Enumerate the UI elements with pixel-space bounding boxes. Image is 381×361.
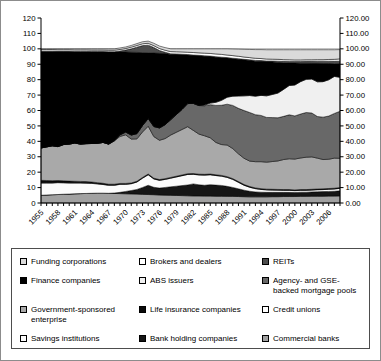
y-right-tick-label: 120.00 (346, 14, 371, 23)
x-tick-label: 2003 (298, 208, 317, 227)
legend-swatch-government-sponsored-enterprise (20, 306, 27, 313)
x-tick-label: 1955 (27, 208, 46, 227)
y-left-tick-label: 110 (23, 29, 36, 38)
x-tick-label: 1976 (145, 208, 164, 227)
y-right-tick-label: 50.00 (346, 122, 366, 131)
legend-label: Funding corporations (31, 257, 106, 267)
legend-swatch-life-insurance-companies (139, 306, 146, 313)
legend-item-savings-institutions: Savings institutions (20, 334, 137, 344)
x-tick-label: 1970 (111, 208, 130, 227)
legend-swatch-credit-unions (262, 306, 269, 313)
chart-legend: Funding corporationsBrokers and dealersR… (11, 248, 370, 349)
legend-label: Commercial banks (273, 334, 339, 344)
legend-swatch-abs-issuers (139, 277, 146, 284)
legend-label: ABS issuers (150, 276, 194, 286)
y-left-tick-label: 40 (27, 137, 36, 146)
legend-swatch-savings-institutions (20, 335, 27, 342)
legend-label: Credit unions (273, 305, 320, 315)
y-right-tick-label: 80.00 (346, 75, 366, 84)
y-left-tick-label: 0 (31, 199, 36, 208)
x-tick-label: 1964 (78, 208, 97, 227)
legend-item-abs-issuers: ABS issuers (139, 276, 260, 286)
legend-item-credit-unions: Credit unions (262, 305, 363, 315)
legend-item-bank-holding-companies: Bank holding companies (139, 334, 260, 344)
legend-label: Life insurance companies (150, 305, 241, 315)
legend-label: Agency- and GSE-backed mortgage pools (273, 276, 363, 296)
x-tick-label: 1979 (162, 208, 181, 227)
y-left-tick-label: 10 (27, 183, 36, 192)
legend-label: Finance companies (31, 276, 100, 286)
legend-swatch-finance-companies (20, 277, 27, 284)
y-left-tick-label: 90 (27, 60, 36, 69)
legend-swatch-agency-gse-backed-mortgage-pools (262, 277, 269, 284)
y-right-tick-label: 0.00 (346, 199, 362, 208)
legend-swatch-reits (262, 258, 269, 265)
plot-areas (41, 41, 340, 203)
legend-item-commercial-banks: Commercial banks (262, 334, 363, 344)
y-left-tick-label: 30 (27, 152, 36, 161)
y-left-tick-label: 70 (27, 91, 36, 100)
legend-item-agency-gse-backed-mortgage-pools: Agency- and GSE-backed mortgage pools (262, 276, 363, 296)
x-tick-label: 1958 (44, 208, 63, 227)
legend-item-finance-companies: Finance companies (20, 276, 137, 286)
x-tick-label: 2006 (314, 208, 333, 227)
legend-swatch-commercial-banks (262, 335, 269, 342)
y-left-tick-label: 60 (27, 106, 36, 115)
legend-swatch-brokers-and-dealers (139, 258, 146, 265)
legend-item-reits: REITs (262, 257, 363, 267)
legend-label: Government-sponsored enterprise (31, 305, 137, 325)
x-tick-label: 1985 (196, 208, 215, 227)
legend-item-funding-corporations: Funding corporations (20, 257, 137, 267)
x-tick-label: 1967 (94, 208, 113, 227)
x-tick-label: 1988 (213, 208, 232, 227)
legend-item-brokers-and-dealers: Brokers and dealers (139, 257, 260, 267)
y-right-tick-label: 60.00 (346, 106, 366, 115)
x-tick-label: 1973 (128, 208, 147, 227)
y-left-tick-label: 50 (27, 122, 36, 131)
x-tick-label: 1961 (61, 208, 80, 227)
legend-label: REITs (273, 257, 294, 267)
y-right-tick-label: 40.00 (346, 137, 366, 146)
y-right-tick-label: 100.00 (346, 44, 371, 53)
y-left-tick-label: 100 (22, 44, 36, 53)
legend-swatch-bank-holding-companies (139, 335, 146, 342)
y-right-tick-label: 10.00 (346, 183, 366, 192)
legend-swatch-funding-corporations (20, 258, 27, 265)
y-left-tick-label: 120 (22, 14, 36, 23)
legend-item-life-insurance-companies: Life insurance companies (139, 305, 260, 315)
x-tick-label: 1991 (230, 208, 249, 227)
y-right-tick-label: 70.00 (346, 91, 366, 100)
y-right-tick-label: 30.00 (346, 152, 366, 161)
stacked-area-chart: 01020304050607080901001101200.0010.0020.… (1, 1, 381, 248)
legend-label: Bank holding companies (150, 334, 237, 344)
x-tick-label: 1994 (247, 208, 266, 227)
legend-grid: Funding corporationsBrokers and dealersR… (12, 249, 369, 350)
x-tick-label: 1982 (179, 208, 198, 227)
y-right-tick-label: 20.00 (346, 168, 366, 177)
y-right-tick-label: 90.00 (346, 60, 366, 69)
x-tick-label: 2000 (281, 208, 300, 227)
legend-label: Brokers and dealers (150, 257, 222, 267)
y-right-tick-label: 110.00 (346, 29, 370, 38)
x-tick-label: 1997 (264, 208, 283, 227)
legend-item-government-sponsored-enterprise: Government-sponsored enterprise (20, 305, 137, 325)
legend-label: Savings institutions (31, 334, 99, 344)
y-left-tick-label: 80 (27, 75, 36, 84)
financial-sector-shares-figure: 01020304050607080901001101200.0010.0020.… (0, 0, 381, 361)
y-left-tick-label: 20 (27, 168, 36, 177)
